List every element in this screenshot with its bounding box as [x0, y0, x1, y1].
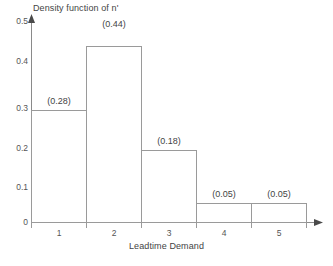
- bar-category-5: [251, 203, 307, 223]
- xtick-label-1: 1: [31, 229, 87, 238]
- bar-category-3: [141, 150, 197, 223]
- x-axis-title: Leadtime Demand: [0, 241, 333, 251]
- arrow-right-icon: [313, 218, 323, 227]
- bar-category-2: [86, 46, 142, 223]
- bar-value-label-5: (0.05): [250, 189, 308, 199]
- arrow-up-icon: [27, 14, 36, 24]
- xtick-mark-1: [86, 223, 87, 228]
- xtick-mark-5: [306, 223, 307, 228]
- ytick-label-0-5: 0.5: [2, 17, 28, 26]
- xtick-mark-2: [141, 223, 142, 228]
- bar-category-4: [196, 203, 252, 223]
- xtick-label-4: 4: [196, 229, 252, 238]
- ytick-label-0-1: 0.1: [2, 183, 28, 192]
- xtick-label-5: 5: [251, 229, 307, 238]
- bar-value-label-2: (0.44): [85, 19, 143, 29]
- xtick-mark-0: [31, 223, 32, 228]
- ytick-label-0-3: 0.3: [2, 104, 28, 113]
- plot-area: 0.5 0.4 0.3 0.2 0.1 0 (0.28) (0.44) (0.1…: [0, 0, 333, 266]
- ytick-label-0-4: 0.4: [2, 57, 28, 66]
- bar-value-label-4: (0.05): [195, 189, 253, 199]
- bar-category-1: [31, 110, 87, 223]
- ytick-label-0-2: 0.2: [2, 144, 28, 153]
- bar-value-label-1: (0.28): [30, 96, 88, 106]
- xtick-mark-4: [251, 223, 252, 228]
- bar-value-label-3: (0.18): [140, 136, 198, 146]
- xtick-label-3: 3: [141, 229, 197, 238]
- xtick-mark-3: [196, 223, 197, 228]
- ytick-label-0: 0: [2, 218, 28, 227]
- chart-screenshot: Density function of n' 0.5 0.4 0.3 0.2 0…: [0, 0, 333, 266]
- xtick-label-2: 2: [86, 229, 142, 238]
